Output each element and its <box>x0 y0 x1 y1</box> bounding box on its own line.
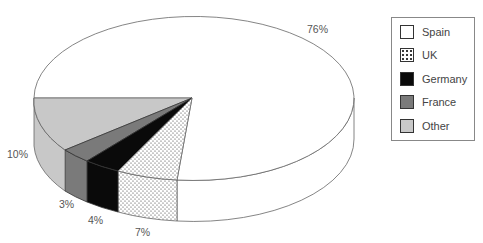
legend-label: UK <box>422 49 437 61</box>
legend-label: Germany <box>422 73 467 85</box>
swatch-france <box>400 95 414 109</box>
pie-chart: 76% 10% 3% 4% 7% <box>0 0 390 243</box>
legend-item-uk: UK <box>400 46 437 64</box>
swatch-spain <box>400 25 414 39</box>
label-other: 10% <box>7 148 28 160</box>
label-france: 3% <box>59 198 74 210</box>
swatch-other <box>400 119 414 133</box>
legend-item-other: Other <box>400 117 450 135</box>
legend-label: France <box>422 96 456 108</box>
legend-item-france: France <box>400 93 456 111</box>
legend: Spain UK Germany France Other <box>391 17 475 141</box>
legend-item-germany: Germany <box>400 70 467 88</box>
swatch-uk <box>400 48 414 62</box>
legend-label: Other <box>422 120 450 132</box>
label-uk: 7% <box>135 226 150 238</box>
swatch-germany <box>400 72 414 86</box>
label-germany: 4% <box>88 214 103 226</box>
label-spain: 76% <box>307 23 328 35</box>
legend-label: Spain <box>422 26 450 38</box>
legend-item-spain: Spain <box>400 23 450 41</box>
